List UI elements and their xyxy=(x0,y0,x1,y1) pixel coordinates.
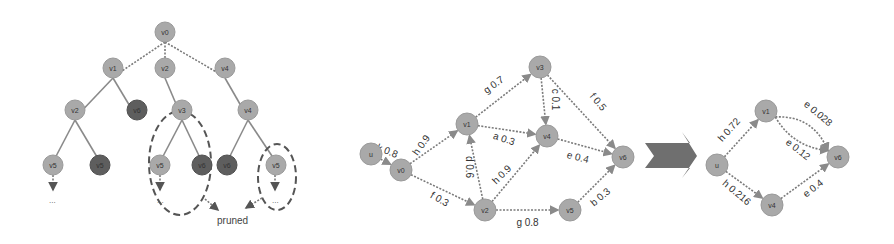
edge-weight-label: h 0.72 xyxy=(716,115,743,143)
node-label: v6 xyxy=(619,154,627,161)
graph-node: v2 xyxy=(65,100,85,120)
search-tree: pruned ... ... ... v0v1v2v4v2v6v3v4v5v5v… xyxy=(43,22,296,226)
node-label: v4 xyxy=(543,133,551,140)
node-label: v5 xyxy=(566,207,574,214)
node-label: v2 xyxy=(71,107,79,114)
node-label: v0 xyxy=(161,29,169,36)
graph-node: v4 xyxy=(238,100,258,120)
graph-edge xyxy=(381,159,391,164)
node-label: v1 xyxy=(762,108,770,115)
edge-weight-label: h 0.216 xyxy=(720,177,753,207)
weighted-graph: k 0.8h 0.9f 0.3d 0.6g 0.7a 0.3c 0.1f 0.5… xyxy=(360,56,634,228)
graph-edge xyxy=(558,139,612,154)
node-label: v4 xyxy=(221,65,229,72)
edge-weight-label: g 0.8 xyxy=(516,217,539,228)
edge-weight-label: c 0.1 xyxy=(550,89,561,111)
graph-node: v1 xyxy=(755,100,777,122)
graph-node: v5 xyxy=(43,155,63,175)
node-label: v1 xyxy=(109,65,117,72)
graph-node: v0 xyxy=(155,22,175,42)
graph-node: v4 xyxy=(761,194,783,216)
graph-node: v5 xyxy=(150,155,170,175)
node-label: v3 xyxy=(178,107,186,114)
node-label: v6 xyxy=(834,154,842,161)
node-label: u xyxy=(369,151,373,158)
graph-node: u xyxy=(706,154,728,176)
graph-node: v4 xyxy=(215,58,235,78)
edge-weight-label: e 0.4 xyxy=(566,149,591,165)
graph-node: v4 xyxy=(536,125,558,147)
graph-node: v5 xyxy=(90,155,110,175)
node-label: u xyxy=(715,162,719,169)
node-label: v3 xyxy=(536,64,544,71)
diagram-canvas: pruned ... ... ... v0v1v2v4v2v6v3v4v5v5v… xyxy=(0,0,894,244)
graph-node: v6 xyxy=(612,146,634,168)
graph-node: v5 xyxy=(559,199,581,221)
graph-node: v2 xyxy=(474,199,496,221)
edge-weight-label: h 0.9 xyxy=(410,132,432,157)
node-label: v5 xyxy=(156,162,164,169)
node-label: v4 xyxy=(244,107,252,114)
node-label: v2 xyxy=(481,207,489,214)
node-label: v2 xyxy=(161,65,169,72)
graph-node: v1 xyxy=(103,58,123,78)
edge-weight-label: b 0.3 xyxy=(588,185,612,208)
edge-weight-label: a 0.3 xyxy=(492,130,517,147)
graph-node: u xyxy=(360,143,382,165)
edge-weight-label: e 0.4 xyxy=(801,177,826,200)
node-label: v6 xyxy=(198,162,206,169)
graph-node: v6 xyxy=(827,146,849,168)
transform-arrow-icon xyxy=(645,132,697,178)
edge-weight-label: h 0.9 xyxy=(490,162,514,186)
edge-weight-label: f 0.5 xyxy=(588,91,609,113)
pruned-pointer-arrow xyxy=(205,199,218,210)
graph-node: v3 xyxy=(529,56,551,78)
graph-node: v5 xyxy=(266,155,286,175)
graph-node: v1 xyxy=(456,113,478,135)
ellipsis: ... xyxy=(272,196,279,205)
pruned-pointer-arrow xyxy=(246,198,262,208)
node-label: v5 xyxy=(96,162,104,169)
node-label: v5 xyxy=(272,162,280,169)
graph-edge xyxy=(541,78,546,124)
node-label: v6 xyxy=(223,162,231,169)
ellipsis: ... xyxy=(49,196,56,205)
graph-node: v6 xyxy=(217,155,237,175)
graph-node: v3 xyxy=(172,100,192,120)
reduced-graph: h 0.72h 0.216e 0.028e 0.12e 0.4 uv1v4v6 xyxy=(706,98,849,216)
node-label: v1 xyxy=(463,121,471,128)
node-label: v0 xyxy=(397,167,405,174)
node-label: v6 xyxy=(133,107,141,114)
edge-weight-label: f 0.3 xyxy=(429,189,452,208)
edge-weight-label: d 0.6 xyxy=(464,156,475,179)
graph-node: v0 xyxy=(390,159,412,181)
graph-node: v6 xyxy=(192,155,212,175)
graph-node: v2 xyxy=(155,58,175,78)
edge-weight-label: g 0.7 xyxy=(481,74,506,96)
graph-node: v6 xyxy=(127,100,147,120)
node-label: v4 xyxy=(768,202,776,209)
ellipsis: ... xyxy=(157,196,164,205)
node-label: v5 xyxy=(49,162,57,169)
pruned-label: pruned xyxy=(217,215,248,226)
